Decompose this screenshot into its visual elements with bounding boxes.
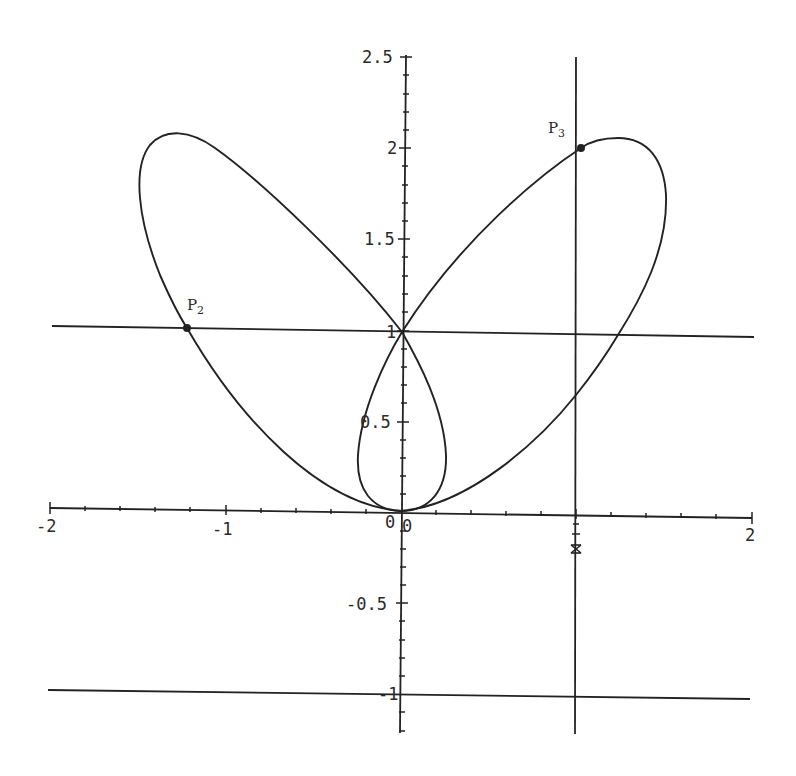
y-tick-label-1.5: 1.5	[364, 229, 395, 249]
y-tick-label-minus1: -1	[378, 684, 398, 704]
y-tick-label-minus0.5: -0.5	[346, 594, 387, 614]
y-tick-label-2.5: 2.5	[362, 47, 393, 67]
x-tick-label-minus1: -1	[212, 519, 232, 539]
horizontal-line-y-minus1	[48, 690, 750, 699]
point-p2	[183, 324, 191, 332]
y-ticks	[396, 57, 412, 731]
y-origin-label: 0	[402, 516, 412, 536]
label-p2: P2	[187, 296, 204, 317]
y-tick-label-1: 1	[386, 322, 396, 342]
point-p3	[577, 144, 585, 152]
left-lobe	[139, 133, 402, 511]
plot: P2 P3 -2 -1 0 0 2 2.5 2 1.5 1 0.5 -0.5 -…	[0, 0, 796, 776]
y-axis	[400, 55, 406, 733]
y-tick-label-2: 2	[387, 138, 397, 158]
y-tick-label-0.5: 0.5	[360, 412, 391, 432]
x-origin-label: 0	[385, 512, 395, 532]
right-lobe	[401, 138, 666, 511]
x-tick-label-2: 2	[745, 525, 755, 545]
x-tick-label-minus2: -2	[36, 516, 56, 536]
label-p3: P3	[548, 119, 565, 140]
